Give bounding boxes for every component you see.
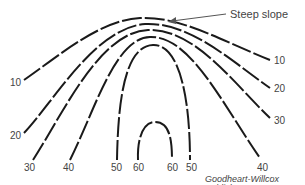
- publisher-credit: Goodheart-Willcox Publisher: [205, 175, 305, 185]
- contour-label-40-left: 40: [63, 163, 74, 173]
- contour-label-30-right: 30: [274, 116, 285, 126]
- contour-line-10: [24, 18, 270, 80]
- contour-line-50: [117, 45, 190, 160]
- contour-label-50-right: 50: [186, 163, 197, 173]
- contour-label-50-left: 50: [111, 163, 122, 173]
- contour-line-60: [138, 122, 172, 160]
- contour-label-20-right: 20: [274, 84, 285, 94]
- contour-label-10-left: 10: [10, 78, 21, 88]
- contour-label-10-right: 10: [274, 56, 285, 66]
- callout-arrow-line: [172, 14, 226, 21]
- contour-label-60-right: 60: [167, 163, 178, 173]
- contour-diagram: [0, 0, 305, 185]
- contour-label-20-left: 20: [10, 131, 21, 141]
- contour-label-40-right: 40: [257, 163, 268, 173]
- steep-slope-label: Steep slope: [230, 9, 288, 20]
- contour-label-30-left: 30: [24, 163, 35, 173]
- contour-label-60-left: 60: [133, 163, 144, 173]
- contour-line-30: [33, 30, 270, 160]
- contour-line-40: [70, 37, 260, 160]
